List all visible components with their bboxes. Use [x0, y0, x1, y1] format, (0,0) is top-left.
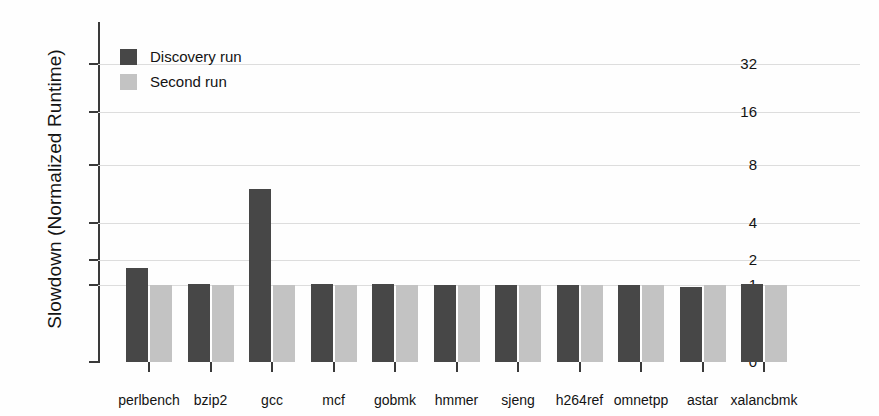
y-axis-tick: [89, 222, 98, 224]
y-axis-tick: [89, 284, 98, 286]
legend-item-discovery-run: Discovery run: [120, 44, 242, 69]
chart-legend: Discovery run Second run: [120, 44, 242, 94]
bar-gobmk-second-run: [396, 285, 418, 362]
bar-perlbench-second-run: [150, 285, 172, 362]
x-axis-tick: [394, 362, 396, 372]
x-axis-label-hmmer: hmmer: [435, 392, 479, 408]
bar-omnetpp-discovery-run: [618, 285, 640, 362]
x-axis-label-astar: astar: [687, 392, 718, 408]
y-axis-tick: [89, 164, 98, 166]
bar-astar-second-run: [704, 285, 726, 362]
bar-h264ref-discovery-run: [557, 285, 579, 362]
chart-figure: Slowdown (Normalized Runtime) 012481632p…: [0, 0, 879, 416]
legend-label: Discovery run: [150, 48, 242, 65]
bar-group: [372, 20, 420, 362]
bar-omnetpp-second-run: [642, 285, 664, 362]
x-axis-tick: [333, 362, 335, 372]
bar-group: [434, 20, 482, 362]
bar-bzip2-discovery-run: [188, 284, 210, 362]
bar-group: [249, 20, 297, 362]
x-axis-label-bzip2: bzip2: [194, 392, 227, 408]
bar-perlbench-discovery-run: [126, 268, 148, 362]
x-axis-label-sjeng: sjeng: [501, 392, 534, 408]
bar-h264ref-second-run: [581, 285, 603, 362]
x-axis-label-gobmk: gobmk: [374, 392, 416, 408]
x-axis-label-xalancbmk: xalancbmk: [731, 392, 798, 408]
bar-hmmer-discovery-run: [434, 285, 456, 362]
x-axis-tick: [271, 362, 273, 372]
bar-group: [311, 20, 359, 362]
bar-sjeng-second-run: [519, 285, 541, 362]
x-axis-label-gcc: gcc: [261, 392, 283, 408]
bar-astar-discovery-run: [680, 287, 702, 362]
bar-group: [680, 20, 728, 362]
legend-item-second-run: Second run: [120, 69, 242, 94]
bar-gobmk-discovery-run: [372, 284, 394, 362]
y-axis-tick: [89, 63, 98, 65]
bar-mcf-second-run: [335, 285, 357, 362]
y-axis-tick: [89, 361, 98, 363]
bar-group: [741, 20, 789, 362]
x-axis-tick: [456, 362, 458, 372]
bar-gcc-discovery-run: [249, 189, 271, 362]
legend-label: Second run: [150, 73, 227, 90]
bar-group: [557, 20, 605, 362]
x-axis-tick: [517, 362, 519, 372]
x-axis-tick: [763, 362, 765, 372]
x-axis-label-omnetpp: omnetpp: [614, 392, 668, 408]
y-axis-tick: [89, 111, 98, 113]
light-swatch-icon: [120, 74, 137, 90]
dark-swatch-icon: [120, 49, 137, 65]
x-axis-tick: [148, 362, 150, 372]
y-axis-title: Slowdown (Normalized Runtime): [44, 24, 66, 354]
x-axis-label-h264ref: h264ref: [556, 392, 603, 408]
bar-xalancbmk-discovery-run: [741, 284, 763, 362]
y-axis-tick: [89, 259, 98, 261]
bar-group: [495, 20, 543, 362]
x-axis-tick: [640, 362, 642, 372]
x-axis-tick: [702, 362, 704, 372]
bar-mcf-discovery-run: [311, 284, 333, 362]
bar-sjeng-discovery-run: [495, 285, 517, 362]
bar-bzip2-second-run: [212, 285, 234, 362]
bar-group: [618, 20, 666, 362]
x-axis-label-perlbench: perlbench: [118, 392, 180, 408]
x-axis-tick: [210, 362, 212, 372]
bar-hmmer-second-run: [458, 285, 480, 362]
bar-gcc-second-run: [273, 285, 295, 362]
bar-xalancbmk-second-run: [765, 285, 787, 362]
x-axis-label-mcf: mcf: [322, 392, 345, 408]
x-axis-tick: [579, 362, 581, 372]
